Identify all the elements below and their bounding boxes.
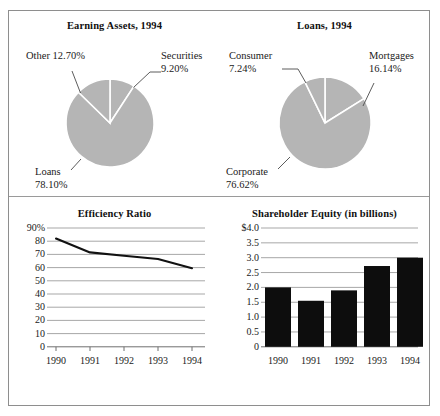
line-series-efficiency-ratio: [56, 239, 192, 269]
leader-line-other: [72, 71, 81, 93]
bar-equity-1991: [298, 301, 324, 347]
bar-equity-1994: [397, 258, 423, 347]
xticks-efficiency: [56, 347, 192, 351]
pie-label-securities-value: 9.20%: [161, 63, 188, 76]
bar-equity-1992: [331, 290, 357, 346]
ytick-efficiency-0: 0: [15, 341, 45, 352]
ytick-equity-3-5: 3.5: [222, 237, 259, 248]
xtick-efficiency-1990: 1990: [39, 355, 73, 366]
leader-line-consumer: [298, 69, 306, 83]
xtick-equity-1992: 1992: [327, 355, 361, 366]
pie-label-mortgages-name: Mortgages: [369, 50, 414, 63]
pie-label-corporate-value: 76.62%: [226, 179, 258, 192]
xtick-equity-1994: 1994: [393, 355, 427, 366]
xtick-equity-1993: 1993: [360, 355, 394, 366]
ytick-equity-0: 0: [222, 341, 259, 352]
page-root: Earning Assets, 1994 Other 12.70% Securi…: [0, 0, 440, 416]
ytick-efficiency-90: 90%: [15, 222, 45, 233]
leader-line-corporate: [278, 157, 290, 169]
pie-label-loans-value: 78.10%: [35, 179, 67, 192]
xtick-efficiency-1993: 1993: [141, 355, 175, 366]
xtick-efficiency-1994: 1994: [175, 355, 209, 366]
ytick-equity-0-5: 0.5: [222, 326, 259, 337]
ytick-equity-2-5: 2.5: [222, 267, 259, 278]
xtick-efficiency-1992: 1992: [107, 355, 141, 366]
ytick-equity-1-5: 1.5: [222, 296, 259, 307]
ytick-efficiency-70: 70: [15, 248, 45, 259]
ytick-efficiency-10: 10: [15, 328, 45, 339]
xtick-equity-1990: 1990: [261, 355, 295, 366]
xtick-efficiency-1991: 1991: [73, 355, 107, 366]
pie-label-mortgages-value: 16.14%: [369, 63, 401, 76]
pie-label-securities-name: Securities: [161, 50, 202, 63]
pie-label-corporate-name: Corporate: [226, 166, 268, 179]
ytick-efficiency-20: 20: [15, 314, 45, 325]
ytick-equity-4-0: $4.0: [222, 222, 259, 233]
leader-line-securities: [134, 72, 151, 88]
bar-equity-1993: [364, 266, 390, 347]
pie-label-loans-name: Loans: [35, 166, 61, 179]
pie-label-consumer-value: 7.24%: [229, 63, 256, 76]
chart-panel-equity: Shareholder Equity (in billions) $4.0 3.…: [220, 197, 429, 405]
ytick-efficiency-80: 80: [15, 235, 45, 246]
ytick-equity-2-0: 2.0: [222, 281, 259, 292]
pie-label-other: Other 12.70%: [26, 50, 85, 63]
ytick-efficiency-40: 40: [15, 288, 45, 299]
ytick-efficiency-30: 30: [15, 301, 45, 312]
pie-label-consumer-name: Consumer: [229, 50, 272, 63]
ytick-equity-3-0: 3.0: [222, 252, 259, 263]
ytick-efficiency-60: 60: [15, 262, 45, 273]
leader-line-loans: [71, 159, 81, 170]
ytick-efficiency-50: 50: [15, 275, 45, 286]
chart-panel-loans: Loans, 1994 Consumer 7.24% Mortgages 16.…: [220, 11, 429, 196]
leader-line-mortgages: [363, 83, 374, 106]
bar-equity-1990: [265, 287, 291, 346]
chart-panel-efficiency: Efficiency Ratio: [9, 197, 220, 405]
ytick-equity-1-0: 1.0: [222, 311, 259, 322]
chart-panel-earning-assets: Earning Assets, 1994 Other 12.70% Securi…: [9, 11, 220, 196]
xtick-equity-1991: 1991: [294, 355, 328, 366]
